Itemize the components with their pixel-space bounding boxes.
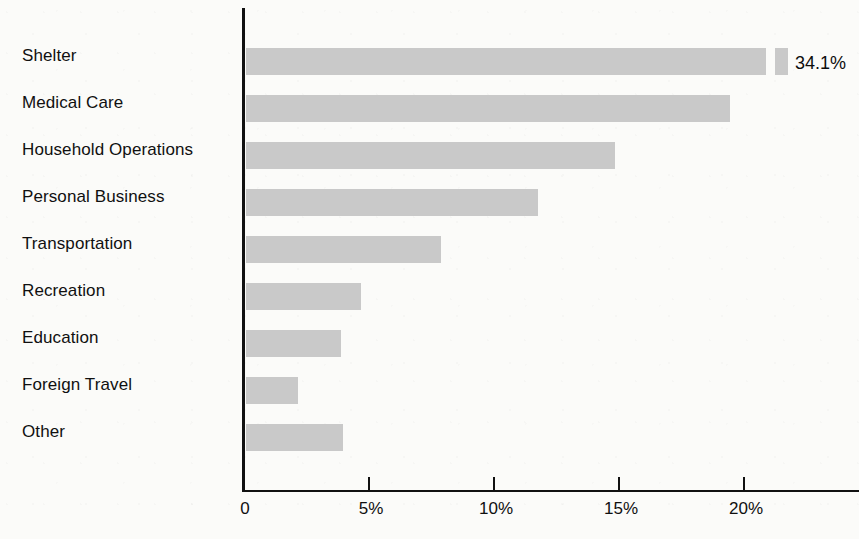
category-label-education: Education bbox=[22, 328, 99, 348]
x-tick-label-10: 10% bbox=[479, 499, 513, 519]
bar-shelter-continuation bbox=[775, 48, 788, 75]
bar-personal-business bbox=[246, 189, 538, 216]
x-tick-label-15: 15% bbox=[604, 499, 638, 519]
category-label-transportation: Transportation bbox=[22, 234, 132, 254]
x-tick-label-5: 5% bbox=[359, 499, 384, 519]
x-tick-mark-0 bbox=[243, 477, 245, 490]
paper-texture bbox=[0, 0, 859, 539]
bar-chart: Shelter Medical Care Household Operation… bbox=[0, 0, 859, 539]
bar-household-operations bbox=[246, 142, 615, 169]
bar-transportation bbox=[246, 236, 441, 263]
category-label-foreign-travel: Foreign Travel bbox=[22, 375, 132, 395]
bar-shelter bbox=[246, 48, 770, 75]
bar-value-shelter: 34.1% bbox=[795, 53, 846, 74]
x-tick-mark-10 bbox=[493, 477, 495, 490]
category-label-personal-business: Personal Business bbox=[22, 187, 165, 207]
x-tick-mark-15 bbox=[618, 477, 620, 490]
x-tick-label-0: 0 bbox=[240, 499, 249, 519]
y-axis-line bbox=[242, 8, 245, 492]
category-label-household-operations: Household Operations bbox=[22, 140, 193, 160]
bar-foreign-travel bbox=[246, 377, 298, 404]
category-label-recreation: Recreation bbox=[22, 281, 105, 301]
x-tick-mark-20 bbox=[743, 477, 745, 490]
bar-other bbox=[246, 424, 343, 451]
x-axis-line bbox=[242, 490, 859, 492]
category-label-shelter: Shelter bbox=[22, 46, 77, 66]
category-label-medical-care: Medical Care bbox=[22, 93, 123, 113]
bar-medical-care bbox=[246, 95, 730, 122]
bar-education bbox=[246, 330, 341, 357]
x-tick-label-20: 20% bbox=[729, 499, 763, 519]
category-label-other: Other bbox=[22, 422, 65, 442]
bar-recreation bbox=[246, 283, 361, 310]
x-tick-mark-5 bbox=[368, 477, 370, 490]
